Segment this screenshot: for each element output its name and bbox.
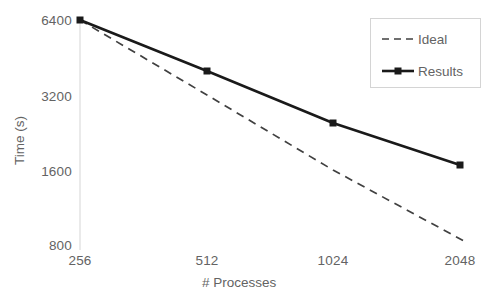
legend-item-results[interactable]: Results: [381, 63, 463, 79]
data-point-marker: [330, 120, 337, 127]
data-point-marker: [457, 162, 464, 169]
x-tick-label-1024: 1024: [303, 253, 363, 268]
legend-swatch-ideal-dashed-line-icon: [381, 32, 415, 46]
data-point-marker: [204, 68, 211, 75]
y-tick-label-800: 800: [22, 238, 72, 253]
legend-item-ideal[interactable]: Ideal: [381, 31, 447, 47]
legend-label-ideal: Ideal: [418, 32, 447, 47]
legend-swatch-results-solid-line-icon: [381, 64, 415, 78]
chart-container: 6400 3200 1600 800 256 512 1024 2048 Tim…: [0, 0, 495, 301]
x-tick-label-256: 256: [50, 253, 110, 268]
y-axis-title: Time (s): [12, 116, 27, 165]
legend-label-results: Results: [418, 64, 463, 79]
y-tick-label-6400: 6400: [22, 13, 72, 28]
x-axis-title: # Processes: [202, 275, 276, 290]
data-point-marker: [77, 17, 84, 24]
y-tick-label-1600: 1600: [22, 164, 72, 179]
legend: Ideal Results: [370, 18, 481, 88]
y-tick-label-3200: 3200: [22, 89, 72, 104]
x-tick-label-2048: 2048: [430, 253, 490, 268]
x-tick-label-512: 512: [177, 253, 237, 268]
